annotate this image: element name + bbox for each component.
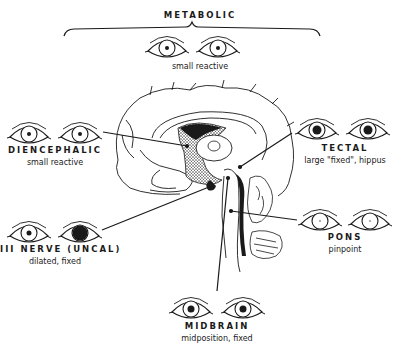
eye-diencephalic-left bbox=[7, 123, 51, 144]
eye-pons-left bbox=[298, 210, 342, 231]
eye-midbrain-left bbox=[169, 298, 213, 319]
eye-tectal-left bbox=[295, 119, 339, 140]
label-diencephalic-description: small reactive bbox=[5, 159, 105, 167]
label-midbrain-title: MIDBRAIN bbox=[167, 322, 267, 331]
label-tectal-title: TECTAL bbox=[295, 144, 395, 153]
label-diencephalic-title: DIENCEPHALIC bbox=[5, 146, 105, 155]
label-midbrain-description: midposition, fixed bbox=[167, 335, 267, 343]
diagram-canvas bbox=[0, 0, 401, 347]
label-tectal-description: large "fixed", hippus bbox=[295, 157, 395, 165]
eye-iii-nerve-right bbox=[58, 222, 102, 243]
label-pons-title: PONS bbox=[295, 233, 395, 242]
label-metabolic-title: METABOLIC bbox=[150, 11, 250, 20]
label-metabolic-description: small reactive bbox=[150, 63, 250, 71]
eye-diencephalic-right bbox=[58, 123, 102, 144]
brainstem bbox=[222, 169, 240, 272]
eye-metabolic-right bbox=[196, 37, 240, 58]
eye-tectal-right bbox=[346, 119, 390, 140]
metabolic-bracket bbox=[64, 22, 320, 36]
eye-metabolic-left bbox=[145, 37, 189, 58]
eye-pons-right bbox=[348, 210, 392, 231]
label-iii-nerve-title: III NERVE (UNCAL) bbox=[0, 245, 110, 254]
label-iii-nerve-description: dilated, fixed bbox=[5, 258, 105, 266]
label-pons-description: pinpoint bbox=[295, 246, 395, 254]
eye-iii-nerve-left bbox=[7, 222, 51, 243]
eye-midbrain-right bbox=[221, 298, 265, 319]
